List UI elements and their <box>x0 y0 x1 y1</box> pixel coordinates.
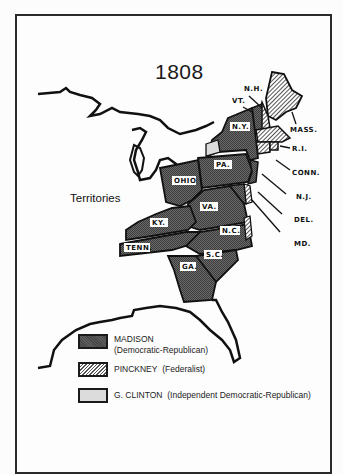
state-pa <box>198 154 252 188</box>
label-ga: GA. <box>182 263 197 271</box>
label-ny: N.Y. <box>232 123 249 131</box>
legend-clinton-name: G. CLINTON <box>114 390 163 400</box>
label-tenn: TENN. <box>126 244 152 252</box>
territories-label: Territories <box>70 192 120 204</box>
label-va: VA. <box>202 203 217 211</box>
legend-madison-name: MADISON <box>114 334 208 345</box>
legend-item-madison: MADISON (Democratic-Republican) <box>78 334 208 356</box>
clinton-swatch <box>78 388 108 403</box>
legend-item-pinckney: PINCKNEY (Federalist) <box>78 362 205 377</box>
legend-item-clinton: G. CLINTON (Independent Democratic-Repub… <box>78 388 311 403</box>
label-ohio: OHIO <box>174 177 196 185</box>
legend-pinckney-name: PINCKNEY <box>114 364 157 374</box>
label-ky: KY. <box>152 219 166 227</box>
legend-madison-party: (Democratic-Republican) <box>114 345 208 356</box>
map-title: 1808 <box>155 60 204 84</box>
callout-conn: CONN. <box>292 169 320 177</box>
state-ri <box>270 142 278 150</box>
callout-vt: VT. <box>232 97 245 105</box>
region-clinton <box>206 140 220 156</box>
northern-border-line <box>38 88 214 134</box>
legend-clinton-party: (Independent Democratic-Republican) <box>167 390 311 400</box>
legend-pinckney-party: (Federalist) <box>162 364 205 374</box>
callout-ri: R.I. <box>292 145 307 153</box>
madison-swatch <box>78 334 108 349</box>
label-nc: N.C. <box>222 227 240 235</box>
state-mass <box>256 126 290 142</box>
callout-del: DEL. <box>294 216 314 224</box>
state-maine <box>266 72 302 120</box>
callout-nj: N.J. <box>296 193 312 201</box>
pinckney-swatch <box>78 362 108 377</box>
label-pa: PA. <box>216 161 230 169</box>
callout-md: MD. <box>294 240 311 248</box>
callout-mass: MASS. <box>290 126 317 134</box>
nc-pinckney-area <box>244 216 252 240</box>
callout-nh: N.H. <box>244 85 263 93</box>
label-sc: S.C. <box>206 251 224 259</box>
